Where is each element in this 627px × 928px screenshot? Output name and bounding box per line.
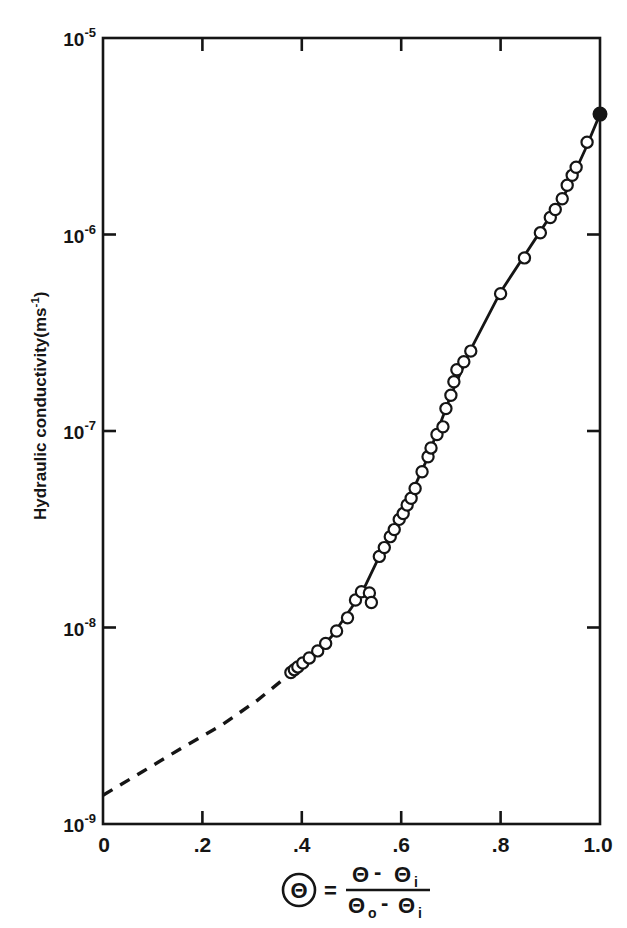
data-point-open bbox=[416, 466, 427, 477]
numerator-minus: - bbox=[374, 859, 381, 884]
y-axis-title-main: Hydraulic conductivity(ms bbox=[31, 307, 50, 520]
x-tick-label: .2 bbox=[194, 833, 212, 856]
data-point-open bbox=[535, 227, 546, 238]
data-point-open bbox=[366, 597, 377, 608]
x-tick-label: .6 bbox=[392, 833, 410, 856]
x-tick-label: 1.0 bbox=[583, 833, 612, 856]
data-markers bbox=[285, 108, 606, 679]
data-point-open bbox=[571, 162, 582, 173]
y-axis-title-superscript: -1 bbox=[29, 297, 41, 308]
numerator-theta-i: Θ bbox=[394, 862, 411, 887]
y-axis-title-tail: ) bbox=[31, 292, 50, 298]
chart-canvas: 10-510-610-710-810-9 0.2.4.6.81.0 Hydrau… bbox=[0, 0, 627, 928]
extrapolated-curve bbox=[103, 673, 291, 795]
data-point-filled bbox=[594, 108, 607, 121]
figure-container: 10-510-610-710-810-9 0.2.4.6.81.0 Hydrau… bbox=[0, 0, 627, 928]
x-axis-tick-labels: 0.2.4.6.81.0 bbox=[98, 833, 612, 856]
data-point-open bbox=[320, 638, 331, 649]
x-tick-label: .4 bbox=[293, 833, 311, 856]
denominator-theta-i: Θ bbox=[398, 893, 415, 918]
data-point-open bbox=[437, 421, 448, 432]
x-tick-label: 0 bbox=[98, 833, 110, 856]
circled-theta-symbol: Θ bbox=[290, 878, 307, 903]
y-tick-label: 10-9 bbox=[63, 811, 96, 836]
data-point-open bbox=[440, 403, 451, 414]
data-point-open bbox=[425, 442, 436, 453]
y-tick-label: 10-6 bbox=[63, 222, 96, 247]
y-axis-title: Hydraulic conductivity(ms-1) bbox=[29, 292, 50, 520]
data-point-open bbox=[557, 193, 568, 204]
y-axis-tick-labels: 10-510-610-710-810-9 bbox=[63, 25, 96, 836]
data-point-open bbox=[495, 288, 506, 299]
numerator-theta: Θ bbox=[352, 862, 369, 887]
axes-frame bbox=[103, 38, 600, 824]
denominator-theta-o: Θ bbox=[348, 893, 365, 918]
numerator-subscript-i: i bbox=[414, 874, 418, 890]
plot-frame bbox=[103, 38, 600, 824]
y-tick-label: 10-5 bbox=[63, 25, 96, 50]
data-point-open bbox=[342, 612, 353, 623]
data-point-open bbox=[519, 252, 530, 263]
data-point-open bbox=[445, 390, 456, 401]
data-point-open bbox=[458, 356, 469, 367]
data-point-open bbox=[550, 204, 561, 215]
denominator-minus: - bbox=[381, 890, 388, 915]
data-point-open bbox=[448, 376, 459, 387]
data-point-open bbox=[581, 137, 592, 148]
svg-text:Hydraulic conductivity(ms-1): Hydraulic conductivity(ms-1) bbox=[29, 292, 50, 520]
data-point-open bbox=[331, 625, 342, 636]
x-axis-title-formula: Θ = Θ - Θ i Θ o - Θ i bbox=[283, 859, 430, 921]
data-point-open bbox=[379, 542, 390, 553]
data-point-open bbox=[410, 483, 421, 494]
formula-equals: = bbox=[324, 878, 337, 903]
tick-marks bbox=[103, 38, 600, 824]
data-point-open bbox=[465, 346, 476, 357]
y-tick-label: 10-7 bbox=[63, 418, 96, 443]
denominator-subscript-o: o bbox=[368, 905, 377, 921]
y-tick-label: 10-8 bbox=[63, 615, 96, 640]
denominator-subscript-i: i bbox=[418, 905, 422, 921]
x-tick-label: .8 bbox=[492, 833, 510, 856]
